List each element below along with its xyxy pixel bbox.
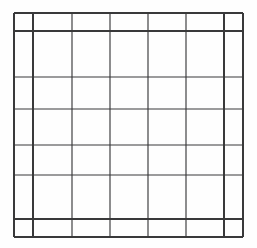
table-cell[interactable] bbox=[34, 110, 71, 144]
table-cell[interactable] bbox=[34, 14, 71, 30]
table-cell[interactable] bbox=[187, 176, 223, 218]
table-cell[interactable] bbox=[187, 146, 223, 174]
table-cell[interactable] bbox=[73, 176, 109, 218]
table-cell[interactable] bbox=[34, 220, 71, 236]
empty-data-table[interactable] bbox=[0, 0, 257, 248]
table-cell[interactable] bbox=[149, 14, 185, 30]
table-cell[interactable] bbox=[111, 146, 147, 174]
table-cell[interactable] bbox=[225, 146, 242, 174]
table-cell[interactable] bbox=[111, 32, 147, 76]
table-cell[interactable] bbox=[111, 220, 147, 236]
table-cell[interactable] bbox=[187, 32, 223, 76]
table-cell[interactable] bbox=[225, 176, 242, 218]
table-cell[interactable] bbox=[73, 110, 109, 144]
table-cell[interactable] bbox=[73, 32, 109, 76]
table-cell[interactable] bbox=[149, 110, 185, 144]
table-cell[interactable] bbox=[187, 110, 223, 144]
table-cell[interactable] bbox=[111, 110, 147, 144]
table-cell[interactable] bbox=[225, 110, 242, 144]
table-cell[interactable] bbox=[15, 176, 32, 218]
table-cell[interactable] bbox=[73, 78, 109, 108]
table-cell[interactable] bbox=[149, 146, 185, 174]
table-cell[interactable] bbox=[73, 14, 109, 30]
table-cell[interactable] bbox=[149, 32, 185, 76]
table-cell[interactable] bbox=[225, 78, 242, 108]
table-cell[interactable] bbox=[149, 176, 185, 218]
table-cell[interactable] bbox=[111, 78, 147, 108]
table-cell[interactable] bbox=[187, 220, 223, 236]
table-cell[interactable] bbox=[111, 176, 147, 218]
table-cell[interactable] bbox=[15, 32, 32, 76]
table-cell[interactable] bbox=[225, 14, 242, 30]
table-cell[interactable] bbox=[15, 146, 32, 174]
table-cell[interactable] bbox=[149, 78, 185, 108]
table-cell[interactable] bbox=[15, 78, 32, 108]
table-cell[interactable] bbox=[34, 32, 71, 76]
table-cell[interactable] bbox=[34, 146, 71, 174]
table-cell[interactable] bbox=[187, 14, 223, 30]
table-cell[interactable] bbox=[73, 220, 109, 236]
table-cell[interactable] bbox=[15, 14, 32, 30]
table-cell[interactable] bbox=[73, 146, 109, 174]
table-cell[interactable] bbox=[187, 78, 223, 108]
table-cell[interactable] bbox=[15, 110, 32, 144]
table-cell[interactable] bbox=[15, 220, 32, 236]
table-cell[interactable] bbox=[34, 176, 71, 218]
table-cell[interactable] bbox=[34, 78, 71, 108]
table-cell[interactable] bbox=[225, 220, 242, 236]
table-cell[interactable] bbox=[111, 14, 147, 30]
table-cell[interactable] bbox=[225, 32, 242, 76]
screenshot-root bbox=[0, 0, 257, 248]
table-cell[interactable] bbox=[149, 220, 185, 236]
